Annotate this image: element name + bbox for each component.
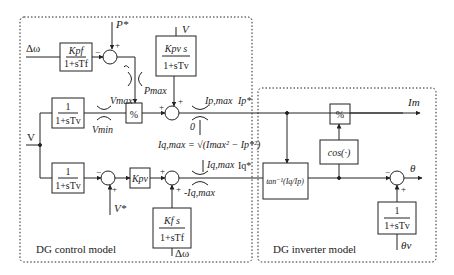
v-ref-label: V*	[114, 202, 127, 214]
vmax-label: Vmax	[110, 95, 133, 106]
filter-top-num: 1	[66, 101, 71, 112]
sum-junction-power	[103, 50, 117, 64]
sum-junction-ip	[165, 106, 179, 120]
sum-junction-iq	[165, 171, 179, 185]
filter-top-den: 1+sTv	[55, 115, 81, 126]
kpv-s-den: 1+sTv	[163, 60, 189, 71]
sign-plus: +	[115, 40, 120, 50]
p-ref-label: P*	[115, 18, 129, 30]
filter-bottom-num: 1	[66, 166, 71, 177]
inverter-region	[258, 88, 436, 262]
output-im-label: Im	[407, 96, 420, 108]
sum-junction-voltage	[101, 171, 115, 185]
sign-plus: +	[401, 184, 406, 194]
divide-top-label: %	[130, 109, 138, 120]
iqmax-equation: Iq,max = √(Imax² − Ip*²)	[157, 139, 261, 151]
sign-plus: +	[159, 102, 164, 112]
vmin-label: Vmin	[92, 124, 113, 135]
delta-omega-top-label: Δω	[26, 42, 40, 54]
output-theta-label: θ	[410, 162, 416, 174]
inverter-region-label: DG inverter model	[273, 243, 356, 255]
cos-label: cos(·)	[328, 147, 351, 159]
pmax-label: Pmax	[143, 85, 167, 96]
v-main-label: V	[27, 131, 35, 143]
ip-ref-label: Ip*	[237, 95, 251, 106]
theta-v-label: θv	[401, 239, 411, 251]
filter-theta-den: 1+sTv	[384, 220, 410, 231]
kpv-s-num: Kpv s	[164, 43, 188, 54]
sum-junction-theta	[390, 171, 404, 185]
sign-minus: −	[95, 47, 100, 57]
ipmax-label: Ip,max	[204, 95, 233, 106]
ipmin-label: 0	[190, 121, 195, 132]
iqmin-label: -Iq,max	[184, 187, 215, 198]
sign-minus: −	[385, 167, 390, 177]
atan-label: tan⁻¹(Iq/Ip)	[266, 177, 304, 186]
block-diagram: Δω P* V V V* Δω θv Kpf 1+sTf Kpv s 1+sTv…	[0, 0, 454, 275]
v-top-label: V	[182, 23, 190, 35]
sign-plus: +	[176, 184, 181, 194]
sign-plus: +	[178, 96, 183, 106]
delta-omega-bottom-label: Δω	[175, 247, 189, 259]
kpf-den: 1+sTf	[64, 58, 89, 69]
iq-ref-label: Iq*	[238, 160, 251, 171]
sign-plus: +	[112, 184, 117, 194]
filter-theta-num: 1	[395, 205, 400, 216]
kpf-num: Kpf	[68, 45, 85, 56]
kpv-label: Kpv	[131, 173, 149, 184]
filter-bottom-den: 1+sTv	[55, 180, 81, 191]
control-region-label: DG control model	[36, 243, 116, 255]
kfs-num: Kf s	[163, 215, 180, 226]
divide-inv-label: %	[336, 109, 344, 120]
iqmax-label: Iq,max	[206, 159, 235, 170]
kfs-den: 1+sTf	[160, 232, 185, 243]
sign-plus: +	[160, 166, 165, 176]
sign-minus: −	[96, 167, 101, 177]
